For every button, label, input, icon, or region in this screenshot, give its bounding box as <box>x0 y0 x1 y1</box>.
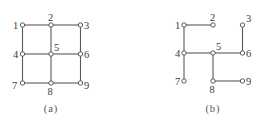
node-label-4: 4 <box>175 48 181 59</box>
node-9 <box>240 79 244 83</box>
node-label-3: 3 <box>246 13 251 24</box>
node-4 <box>20 52 24 56</box>
node-label-6: 6 <box>246 48 251 59</box>
figure-a-grid-graph: 123456789 (a) <box>12 12 89 115</box>
node-label-8: 8 <box>48 86 53 97</box>
node-label-1: 1 <box>175 20 180 31</box>
node-label-5: 5 <box>54 42 59 53</box>
node-5 <box>49 52 53 56</box>
node-1 <box>182 23 186 27</box>
node-2 <box>211 23 215 27</box>
node-label-4: 4 <box>13 49 19 60</box>
node-2 <box>49 23 53 27</box>
node-label-1: 1 <box>13 20 18 31</box>
node-label-7: 7 <box>12 80 17 91</box>
graph-diagram: 123456789 (a) 123456789 (b) <box>0 0 260 126</box>
node-label-8: 8 <box>210 84 215 95</box>
node-label-9: 9 <box>246 76 251 87</box>
node-label-2: 2 <box>48 12 53 23</box>
node-7 <box>182 79 186 83</box>
node-4 <box>182 51 186 55</box>
figure-b-caption: (b) <box>205 103 220 115</box>
node-5 <box>211 51 215 55</box>
node-7 <box>20 81 24 85</box>
node-label-3: 3 <box>84 20 89 31</box>
node-6 <box>240 51 244 55</box>
figure-a-caption: (a) <box>44 103 59 115</box>
node-8 <box>211 79 215 83</box>
node-label-7: 7 <box>175 76 180 87</box>
node-label-6: 6 <box>84 49 89 60</box>
node-6 <box>78 52 82 56</box>
node-3 <box>78 23 82 27</box>
node-1 <box>20 23 24 27</box>
node-3 <box>240 23 244 27</box>
node-label-9: 9 <box>84 80 89 91</box>
node-label-5: 5 <box>216 41 221 52</box>
node-9 <box>78 81 82 85</box>
node-label-2: 2 <box>210 12 215 23</box>
node-8 <box>49 81 53 85</box>
figure-b-spanning-tree: 123456789 (b) <box>175 12 251 115</box>
